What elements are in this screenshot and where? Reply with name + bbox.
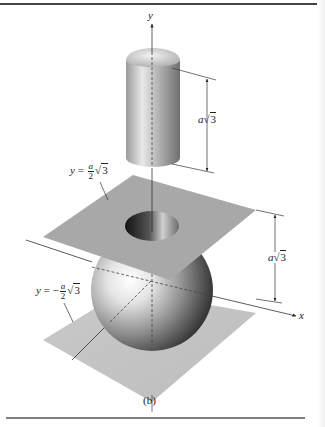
sqrt: √3: [204, 112, 217, 125]
lower-plane-equation: y = −a2√3: [36, 282, 80, 301]
sphere-with-cylindrical-hole-diagram: [0, 0, 325, 427]
figure-caption: (b): [143, 395, 156, 406]
eq-lhs: y: [36, 284, 41, 296]
sqrt: √3: [95, 163, 108, 176]
sqrt: √3: [274, 250, 287, 263]
denominator: 2: [88, 172, 95, 181]
cylinder-cap: [126, 48, 180, 67]
eq-equals: =: [78, 164, 84, 176]
slab-dim-bottom-ext: [256, 299, 282, 303]
radicand: 3: [280, 250, 287, 263]
cylinder-body: [126, 60, 180, 167]
fraction: a2: [60, 282, 67, 301]
lower-plane-leader: [64, 303, 73, 322]
slab-height-label: a√3: [268, 252, 286, 263]
denominator: 2: [60, 292, 67, 301]
upper-plane-equation: y = a2√3: [70, 162, 108, 181]
eq-lhs: y: [70, 164, 75, 176]
x-axis-label: x: [299, 310, 304, 321]
cylinder-dim-bottom-ext: [172, 164, 214, 173]
sqrt: √3: [67, 283, 80, 296]
radicand: 3: [73, 283, 80, 296]
y-axis-label: y: [148, 10, 153, 21]
eq-equals: =: [44, 284, 50, 296]
slab-dim-top-ext: [256, 210, 284, 216]
page-edge-shadow: [317, 0, 325, 427]
radicand: 3: [101, 163, 108, 176]
radicand: 3: [210, 112, 217, 125]
cylinder-height-label: a√3: [198, 114, 216, 125]
fraction: a2: [88, 162, 95, 181]
eq-sign: −: [53, 284, 59, 296]
